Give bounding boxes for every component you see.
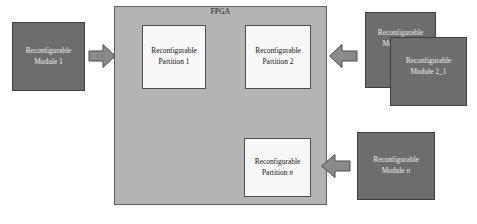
reconfigurable-partition-1: ReconfigurablePartition 1 [142, 25, 206, 89]
reconfigurable-partition-2: ReconfigurablePartition 2 [245, 25, 311, 89]
partition-n-line2: Partition [262, 168, 289, 177]
diagram-canvas: FPGA ReconfigurablePartition 1 Reconfigu… [0, 0, 477, 224]
partition-n-line1: Reconfigurable [255, 157, 301, 166]
module-n-line2: Module [382, 166, 407, 175]
fpga-label: FPGA [114, 7, 327, 16]
partition-1-line2: Partition 1 [159, 57, 190, 66]
block-arrow-left-icon [320, 153, 351, 179]
module-2-2-line1: Reconfigurable [378, 28, 424, 37]
partition-2-line2: Partition 2 [263, 57, 294, 66]
partition-2-text: ReconfigurablePartition 2 [255, 46, 301, 67]
module-2-1-line1: Reconfigurable [406, 56, 452, 65]
reconfigurable-module-2-1: ReconfigurableModule 2_1 [390, 37, 467, 106]
partition-n-text: ReconfigurablePartition n [255, 157, 301, 178]
module-2-1-line2: Module 2_1 [411, 67, 447, 76]
partition-n-index: n [289, 168, 293, 177]
module-1-line2: Module 1 [34, 57, 63, 66]
module-n-index: n [407, 166, 411, 175]
module-n-line1: Reconfigurable [373, 155, 419, 164]
module-1-text: ReconfigurableModule 1 [26, 46, 72, 67]
block-arrow-right-icon [88, 43, 116, 69]
reconfigurable-module-1: ReconfigurableModule 1 [12, 22, 85, 91]
reconfigurable-module-n: ReconfigurableModule n [357, 132, 435, 200]
reconfigurable-partition-n: ReconfigurablePartition n [244, 138, 311, 197]
partition-1-line1: Reconfigurable [151, 46, 197, 55]
module-2-1-text: ReconfigurableModule 2_1 [406, 56, 452, 87]
partition-1-text: ReconfigurablePartition 1 [151, 46, 197, 67]
module-n-text: ReconfigurableModule n [373, 155, 419, 176]
module-1-line1: Reconfigurable [26, 46, 72, 55]
partition-2-line1: Reconfigurable [255, 46, 301, 55]
block-arrow-left-icon [328, 43, 358, 69]
